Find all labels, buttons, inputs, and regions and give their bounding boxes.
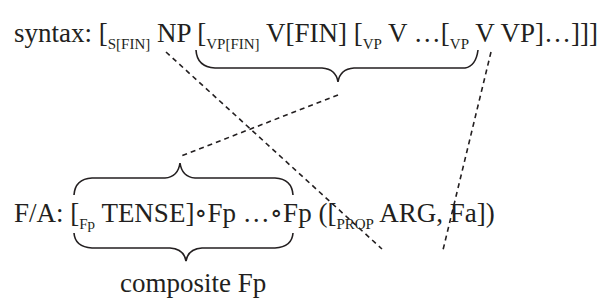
- syntax-row: syntax: [S[FIN] NP [VP[FIN] V[FIN] [VP V…: [14, 20, 597, 47]
- fp-lower-brace: [74, 233, 293, 261]
- vp-subscript-2: VP: [450, 36, 469, 52]
- vp-bracket-2: [: [441, 18, 450, 48]
- vp-fin-bracket: [: [197, 18, 206, 48]
- vp-bracket-1: [: [354, 18, 363, 48]
- fa-row: F/A: [Fp TENSE]∘Fp …∘Fp ([PROP ARG, Fa]): [14, 200, 495, 227]
- fa-label: F/A:: [14, 198, 64, 228]
- vp-fin-subscript: VP[FIN]: [206, 36, 259, 52]
- composite-fp-caption: composite Fp: [120, 268, 266, 299]
- np-token: NP: [150, 18, 197, 48]
- fp-subscript: Fp: [79, 216, 95, 232]
- arg-fa-token: ARG, Fa]): [374, 198, 495, 228]
- s-fin-bracket: [: [99, 18, 108, 48]
- fp-bracket: [: [70, 198, 79, 228]
- fp-upper-brace: [74, 163, 293, 195]
- v-vp-token: V VP]…]]]: [469, 18, 597, 48]
- vp-to-fp-link: [181, 95, 338, 156]
- vp-brace: [196, 50, 478, 82]
- v-token-1: V …: [382, 18, 441, 48]
- vp-subscript-1: VP: [363, 36, 382, 52]
- s-fin-subscript: S[FIN]: [108, 36, 151, 52]
- prop-subscript: PROP: [336, 216, 374, 232]
- v-fin-token: V[FIN]: [260, 18, 354, 48]
- syntax-label: syntax:: [14, 18, 92, 48]
- tense-fp-token: TENSE]∘Fp …∘Fp (: [95, 198, 327, 228]
